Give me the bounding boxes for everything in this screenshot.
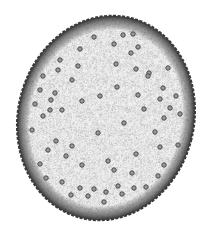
vascular-bundle bbox=[46, 148, 50, 152]
vascular-bundle bbox=[102, 200, 106, 204]
vascular-bundle bbox=[136, 93, 140, 97]
vascular-bundle bbox=[156, 174, 160, 178]
vascular-bundle bbox=[49, 98, 53, 102]
vascular-bundle bbox=[114, 62, 118, 66]
vascular-bundle bbox=[86, 194, 90, 198]
vascular-bundle bbox=[38, 162, 42, 166]
vascular-bundle bbox=[142, 107, 146, 111]
vascular-bundle bbox=[116, 184, 120, 188]
vascular-bundle bbox=[161, 86, 165, 90]
vascular-bundle bbox=[33, 102, 37, 106]
vascular-bundle bbox=[121, 33, 125, 37]
vascular-bundle bbox=[158, 145, 162, 149]
vascular-bundle bbox=[104, 190, 108, 194]
vascular-bundle bbox=[122, 121, 126, 125]
vascular-bundle bbox=[112, 42, 116, 46]
vascular-bundle bbox=[115, 85, 119, 89]
vascular-bundle bbox=[70, 144, 74, 148]
vascular-bundle bbox=[38, 88, 42, 92]
vascular-bundle bbox=[92, 187, 96, 191]
vascular-bundle bbox=[30, 128, 34, 132]
vascular-bundle bbox=[92, 35, 96, 39]
vascular-bundle bbox=[178, 112, 182, 116]
vascular-bundle bbox=[64, 154, 68, 158]
vascular-bundle bbox=[158, 97, 162, 101]
vascular-bundle bbox=[129, 51, 133, 55]
vascular-bundle bbox=[78, 47, 82, 51]
vascular-bundle bbox=[166, 66, 170, 70]
vascular-bundle bbox=[53, 91, 57, 95]
vascular-bundle bbox=[60, 180, 64, 184]
vascular-bundle bbox=[120, 192, 124, 196]
vascular-bundle bbox=[48, 108, 52, 112]
vascular-bundle bbox=[41, 114, 45, 118]
vascular-bundle bbox=[80, 163, 84, 167]
vascular-bundle bbox=[176, 143, 180, 147]
vascular-bundle bbox=[41, 74, 45, 78]
vascular-bundle bbox=[70, 78, 74, 82]
vascular-bundle bbox=[60, 108, 64, 112]
vascular-bundle bbox=[54, 139, 58, 143]
vascular-bundle bbox=[44, 176, 48, 180]
vascular-bundle bbox=[56, 68, 60, 72]
vascular-bundle bbox=[78, 186, 82, 190]
vascular-bundle bbox=[69, 193, 73, 197]
vascular-bundle bbox=[96, 131, 100, 135]
vascular-bundle bbox=[134, 67, 138, 71]
vascular-bundle bbox=[106, 159, 110, 163]
vascular-bundle bbox=[144, 185, 148, 189]
vascular-bundle bbox=[146, 74, 150, 78]
vascular-bundle bbox=[76, 64, 80, 68]
stem-cross-section-illustration bbox=[0, 0, 208, 233]
vascular-bundle bbox=[162, 116, 166, 120]
vascular-bundle bbox=[153, 130, 157, 134]
vascular-bundle bbox=[132, 186, 136, 190]
epidermis-rim bbox=[0, 0, 208, 233]
vascular-bundle bbox=[162, 163, 166, 167]
vascular-bundle bbox=[98, 94, 102, 98]
vascular-bundle bbox=[136, 45, 140, 49]
vascular-bundle bbox=[134, 152, 138, 156]
vascular-bundle bbox=[112, 168, 116, 172]
vascular-bundle bbox=[80, 99, 84, 103]
stem-outline bbox=[0, 0, 208, 233]
vascular-bundle bbox=[58, 58, 62, 62]
vascular-bundle bbox=[174, 94, 178, 98]
vascular-bundle bbox=[130, 171, 134, 175]
vascular-bundle bbox=[131, 32, 135, 36]
vascular-bundle bbox=[168, 106, 172, 110]
